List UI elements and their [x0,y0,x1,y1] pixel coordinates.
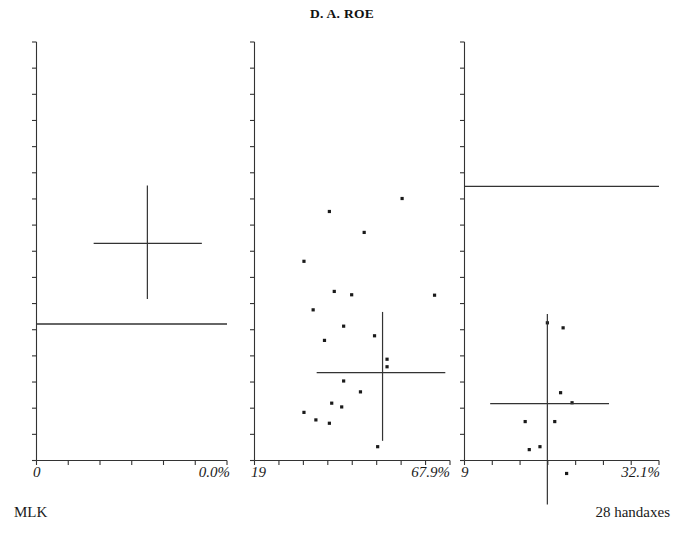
data-point [328,210,331,213]
chart-panel-3 [463,42,659,462]
caption-site-label: MLK [14,504,47,521]
panel-1-plot [35,42,227,462]
chart-panel-2 [253,42,450,462]
panel-2-plot [253,42,450,462]
data-point [359,390,362,393]
data-point [330,402,333,405]
data-point [538,445,541,448]
panel-1-x-max-label: 0.0% [150,464,230,481]
data-point [433,294,436,297]
chart-panel-1 [35,42,227,462]
data-point [333,290,336,293]
data-point [376,445,379,448]
page-title: D. A. ROE [0,6,684,22]
panel-2-x-min-label: 19 [251,464,266,481]
panel-3-x-min-label: 9 [461,464,469,481]
data-point [328,422,331,425]
data-point [559,391,562,394]
data-point [302,260,305,263]
data-point [342,379,345,382]
data-point [553,420,556,423]
data-point [363,231,366,234]
roe-handaxe-figure: D. A. ROE 0 0.0% 19 67.9% 9 32.1% MLK 28… [0,0,684,547]
panel-2-x-max-label: 67.9% [370,464,450,481]
data-point [562,326,565,329]
data-point [565,472,568,475]
panel-1-x-min-label: 0 [33,464,41,481]
caption-sample-size: 28 handaxes [595,504,670,521]
data-point [314,418,317,421]
data-point [528,448,531,451]
data-point [385,365,388,368]
panel-3-plot [463,42,659,462]
data-point [350,293,353,296]
data-point [302,411,305,414]
data-point [373,334,376,337]
data-point [524,420,527,423]
panel-3-x-max-label: 32.1% [580,464,660,481]
data-point [401,197,404,200]
data-point [342,325,345,328]
data-point [323,339,326,342]
data-point [312,308,315,311]
data-point [340,405,343,408]
data-point [385,358,388,361]
